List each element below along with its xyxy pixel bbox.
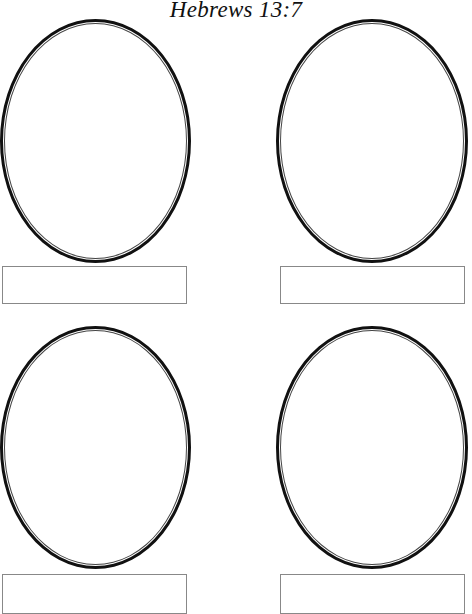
oval-frame-inner <box>280 330 464 565</box>
name-label-box[interactable] <box>2 266 187 304</box>
oval-frame-inner <box>4 23 187 259</box>
oval-frame-inner <box>280 23 464 259</box>
name-label-box[interactable] <box>280 574 465 614</box>
oval-frame-inner <box>4 330 187 565</box>
name-label-box[interactable] <box>2 574 187 614</box>
name-label-box[interactable] <box>280 266 465 304</box>
page-title: Hebrews 13:7 <box>0 0 472 24</box>
